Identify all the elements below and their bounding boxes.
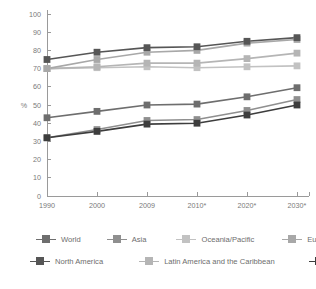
y-tick-label: 30 [33, 137, 41, 146]
x-tick-label: 2010* [188, 201, 207, 210]
x-tick-label: 2000 [89, 201, 105, 210]
series-marker [294, 84, 301, 91]
series-marker [44, 114, 51, 121]
y-tick-label: 10 [33, 173, 41, 182]
legend-row-2: North America Latin America and the Cari… [8, 250, 308, 272]
series-line [47, 38, 297, 60]
series-marker [144, 121, 151, 128]
series-marker [244, 112, 251, 119]
series-marker [294, 102, 301, 109]
legend-label: Latin America and the Caribbean [164, 257, 275, 266]
series-marker [94, 56, 101, 63]
legend-marker-icon [107, 235, 127, 244]
series-marker [194, 101, 201, 108]
series-marker [194, 120, 201, 127]
series-marker [244, 63, 251, 70]
legend-marker-icon [309, 257, 316, 266]
x-tick-label: 1990 [39, 201, 55, 210]
data-series-layer [44, 34, 301, 141]
y-tick-label: 40 [33, 119, 41, 128]
series-marker [294, 50, 301, 57]
legend-item-world[interactable]: World [36, 235, 81, 244]
legend-marker-icon [30, 257, 50, 266]
legend-label: Asia [132, 235, 147, 244]
series-marker [194, 60, 201, 67]
legend-item-oceania-pacific[interactable]: Oceania/Pacific [176, 235, 254, 244]
series-line [47, 105, 297, 138]
legend-item-asia[interactable]: Asia [107, 235, 147, 244]
series-marker [144, 60, 151, 67]
x-axis-ticks: 1990200020092010*2020*2030* [39, 192, 309, 210]
series-marker [244, 38, 251, 45]
legend-item-europe[interactable]: Europe [282, 235, 316, 244]
legend-item-africa[interactable]: Africa [309, 257, 316, 266]
x-tick-label: 2009 [139, 201, 155, 210]
legend-item-north-america[interactable]: North America [30, 257, 103, 266]
legend-item-latin-america-caribbean[interactable]: Latin America and the Caribbean [139, 257, 275, 266]
series-marker [94, 108, 101, 115]
series-marker [44, 65, 51, 72]
chart-legend: World Asia Oceania/Pacific Europe [0, 228, 316, 272]
series-marker [244, 55, 251, 62]
y-tick-label: 80 [33, 46, 41, 55]
chart-container: 0102030405060708090100 1990200020092010*… [0, 0, 316, 289]
series-marker [194, 43, 201, 50]
x-tick-label: 2020* [238, 201, 257, 210]
series-marker [294, 62, 301, 69]
legend-label: Oceania/Pacific [201, 235, 254, 244]
y-tick-label: 90 [33, 28, 41, 37]
y-tick-label: 60 [33, 82, 41, 91]
series-marker [44, 56, 51, 63]
line-chart-svg: 0102030405060708090100 1990200020092010*… [0, 0, 316, 225]
series-marker [94, 63, 101, 70]
plot-area: 0102030405060708090100 1990200020092010*… [0, 0, 316, 225]
legend-label: World [61, 235, 81, 244]
legend-marker-icon [282, 235, 302, 244]
series-marker [294, 34, 301, 41]
x-tick-label: 2030* [288, 201, 307, 210]
series-marker [244, 93, 251, 100]
series-marker [94, 49, 101, 56]
series-marker [44, 134, 51, 141]
legend-label: Europe [307, 235, 316, 244]
legend-row-1: World Asia Oceania/Pacific Europe [8, 228, 308, 250]
y-tick-label: 50 [33, 101, 41, 110]
legend-marker-icon [36, 235, 56, 244]
y-axis-ticks: 0102030405060708090100 [29, 10, 51, 201]
legend-label: North America [55, 257, 103, 266]
y-tick-label: 0 [37, 192, 41, 201]
series-marker [94, 128, 101, 135]
legend-marker-icon [176, 235, 196, 244]
y-tick-label: 100 [29, 10, 41, 19]
y-tick-label: 20 [33, 155, 41, 164]
y-axis-label: % [21, 101, 28, 110]
y-tick-label: 70 [33, 64, 41, 73]
series-marker [144, 102, 151, 109]
legend-marker-icon [139, 257, 159, 266]
series-marker [144, 44, 151, 51]
